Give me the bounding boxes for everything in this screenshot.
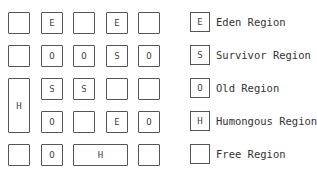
free-region-cell: [106, 78, 128, 100]
humongous-region-cell: H: [8, 78, 30, 133]
survivor-region-legend-label: Survivor Region: [216, 49, 311, 61]
eden-region-cell: E: [106, 12, 128, 34]
free-region-cell: [138, 144, 160, 166]
eden-region-legend-swatch: E: [190, 12, 210, 32]
free-region-cell: [8, 144, 30, 166]
survivor-region-cell: S: [73, 78, 95, 100]
free-region-cell: [138, 12, 160, 34]
old-region-cell: O: [138, 111, 160, 133]
old-region-cell: O: [41, 111, 63, 133]
old-region-cell: O: [41, 45, 63, 67]
survivor-region-legend-swatch: S: [190, 45, 210, 65]
eden-region-cell: E: [41, 12, 63, 34]
survivor-region-cell: S: [41, 78, 63, 100]
old-region-cell: O: [138, 45, 160, 67]
free-region-cell: [8, 12, 30, 34]
free-region-legend-label: Free Region: [216, 148, 286, 160]
free-region-legend-swatch: [190, 144, 210, 164]
humongous-region-cell: H: [73, 144, 128, 166]
old-region-cell: O: [73, 45, 95, 67]
eden-region-cell: E: [106, 111, 128, 133]
eden-region-legend-label: Eden Region: [216, 16, 286, 28]
free-region-cell: [8, 45, 30, 67]
old-region-cell: O: [41, 144, 63, 166]
survivor-region-cell: S: [106, 45, 128, 67]
humongous-region-legend-label: Humongous Region: [216, 115, 317, 127]
free-region-cell: [138, 78, 160, 100]
old-region-legend-label: Old Region: [216, 82, 279, 94]
humongous-region-legend-swatch: H: [190, 111, 210, 131]
old-region-legend-swatch: O: [190, 78, 210, 98]
free-region-cell: [73, 12, 95, 34]
free-region-cell: [73, 111, 95, 133]
